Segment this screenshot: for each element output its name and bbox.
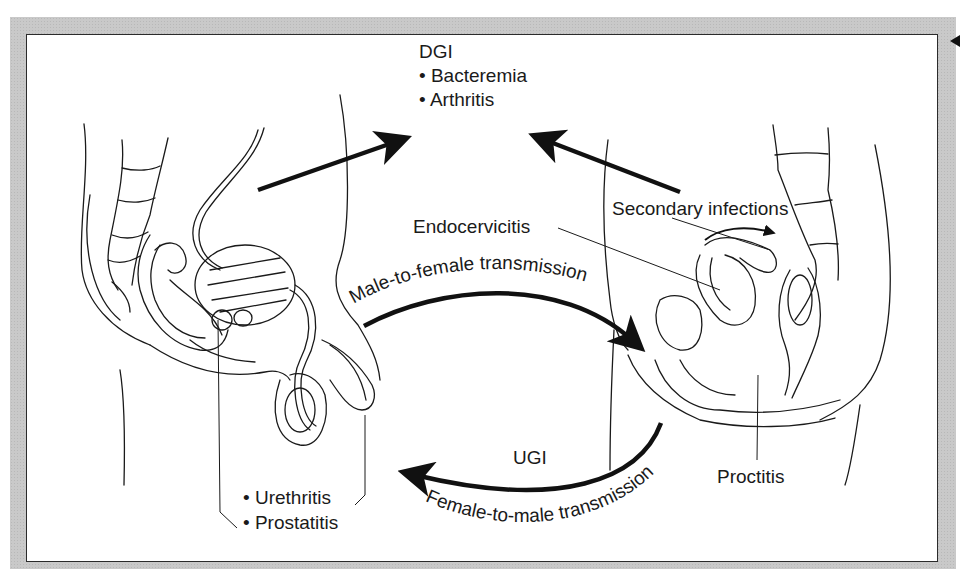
ugi-label: UGI (513, 447, 547, 469)
endocervicitis-label: Endocervicitis (413, 216, 530, 238)
male-to-female-arrow-icon (364, 293, 632, 340)
male-to-dgi-arrow-icon (258, 142, 395, 190)
female-to-dgi-arrow-icon (545, 140, 680, 192)
secondary-infections-label: Secondary infections (612, 198, 788, 220)
prostatitis-label: • Prostatitis (243, 512, 338, 534)
anatomy-illustration: Male-to-female transmission Female-to-ma… (0, 0, 962, 581)
dgi-item-bacteremia: • Bacteremia (419, 65, 527, 87)
dgi-item-arthritis: • Arthritis (419, 89, 494, 111)
male-pelvis-illustration (81, 95, 380, 485)
proctitis-label: Proctitis (717, 466, 785, 488)
dgi-heading: DGI (419, 41, 453, 63)
urethritis-label: • Urethritis (243, 487, 331, 509)
